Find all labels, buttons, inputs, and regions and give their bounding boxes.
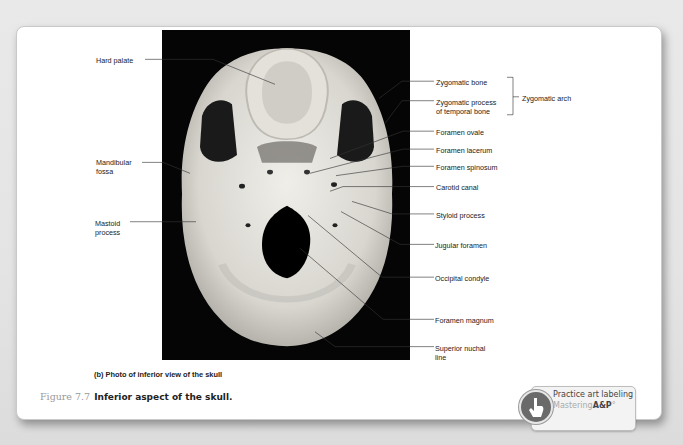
figure-caption: Figure 7.7Inferior aspect of the skull. — [40, 386, 232, 404]
label-hard-palate: Hard palate — [96, 56, 133, 65]
label-foramen-magnum: Foramen magnum — [435, 316, 494, 325]
label-foramen-ovale: Foramen ovale — [436, 128, 484, 137]
label-mandibular-fossa: Mandibular fossa — [96, 158, 132, 176]
label-occipital-condyle: Occipital condyle — [435, 274, 489, 283]
label-zygomatic-arch: Zygomatic arch — [522, 94, 571, 103]
label-carotid-canal: Carotid canal — [436, 183, 478, 192]
brand-mark: ° — [612, 401, 616, 410]
practice-label[interactable]: Practice art labeling — [553, 390, 633, 399]
figure-number: Figure 7.7 — [40, 391, 90, 402]
label-foramen-spinosum: Foramen spinosum — [436, 163, 498, 172]
label-foramen-lacerum: Foramen lacerum — [436, 146, 492, 155]
brand-name: A&P — [593, 401, 612, 410]
panel-caption: (b) Photo of inferior view of the skull — [94, 370, 222, 379]
label-zygomatic-bone: Zygomatic bone — [436, 78, 487, 87]
figure-title: Inferior aspect of the skull. — [94, 392, 232, 402]
mastering-brand[interactable]: MasteringA&P° — [553, 401, 616, 410]
label-mastoid-process: Mastoid process — [95, 219, 120, 237]
label-jugular-foramen: Jugular foramen — [435, 241, 487, 250]
label-superior-nuchal-line: Superior nuchal line — [435, 344, 485, 362]
label-styloid-process: Styloid process — [436, 211, 485, 220]
label-zygomatic-process: Zygomatic process of temporal bone — [436, 98, 496, 116]
brand-prefix: Mastering — [553, 401, 593, 410]
skull-photo — [162, 30, 410, 359]
skull-illustration — [162, 30, 410, 359]
hand-pointer-icon[interactable] — [519, 390, 553, 424]
